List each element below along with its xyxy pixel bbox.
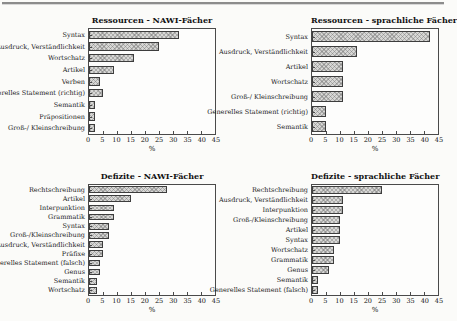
category-label: Ausdruck, Verständlichkeit	[0, 241, 85, 248]
x-tick-mark	[117, 292, 118, 295]
bar	[312, 206, 343, 213]
x-tick-label: 20	[364, 137, 372, 144]
x-tick-label: 45	[212, 137, 220, 144]
x-tick-label: 5	[100, 137, 104, 144]
bar-row: Syntax	[312, 29, 438, 44]
bar	[89, 77, 100, 85]
bar-row: Wortschatz	[312, 74, 438, 89]
x-tick-label: 35	[406, 298, 414, 305]
category-label: Grammatik	[271, 257, 308, 264]
x-tick-label: 15	[127, 137, 135, 144]
bar	[89, 232, 109, 239]
x-axis-ticks: 051015202530354045	[311, 135, 439, 144]
bar	[89, 250, 103, 257]
bar	[89, 260, 100, 267]
x-tick-label: 20	[364, 298, 372, 305]
category-label: Genus	[64, 269, 85, 276]
category-label: Syntax	[63, 32, 85, 39]
x-tick-mark	[159, 131, 160, 134]
x-tick-label: 20	[141, 137, 149, 144]
bar-row: Artikel	[89, 64, 215, 76]
bar-row: Semantik	[89, 99, 215, 111]
x-tick-label: 30	[169, 137, 177, 144]
x-tick-label: 5	[100, 298, 104, 305]
category-label: Semantik	[54, 102, 85, 109]
bar-row: Rechtschreibung	[312, 185, 438, 195]
x-tick-mark	[187, 292, 188, 295]
category-label: Verben	[62, 78, 85, 85]
category-label: Grammatik	[48, 214, 85, 221]
chart-defizite-nawi: Defizite - NAWI-Fächer RechtschreibungAr…	[0, 160, 223, 321]
category-label: Groß-/Kleinschreibung	[10, 232, 85, 239]
chart-panel-grid: Ressourcen - NAWI-Fächer SyntaxAusdruck,…	[0, 8, 446, 321]
bar-row: Generelles Statement (richtig)	[312, 104, 438, 119]
category-label: Präfixe	[62, 251, 85, 258]
bar-row: Wortschatz	[89, 52, 215, 64]
x-tick-mark	[145, 292, 146, 295]
bar-row: Grammatik	[312, 255, 438, 265]
category-label: Interpunktion	[39, 205, 85, 212]
x-tick-label: 0	[309, 137, 313, 144]
x-tick-mark	[159, 292, 160, 295]
category-label: Interpunktion	[262, 207, 308, 214]
category-label: Groß-/ Kleinschreibung	[231, 93, 308, 100]
category-label: Generelles Statement (richtig)	[0, 90, 85, 97]
x-tick-label: 15	[350, 137, 358, 144]
x-tick-label: 25	[378, 298, 386, 305]
bar-row: Genus	[312, 265, 438, 275]
bar-row: Wortschatz	[89, 286, 215, 295]
bar	[89, 195, 131, 202]
bar	[312, 106, 326, 117]
x-tick-label: 45	[435, 298, 443, 305]
x-tick-label: 0	[86, 137, 90, 144]
chart-defizite-sprachlich: Defizite - sprachliche Fächer Rechtschre…	[223, 160, 446, 321]
x-tick-mark	[201, 292, 202, 295]
bar	[89, 214, 114, 221]
bar-row: Grammatik	[89, 213, 215, 222]
x-tick-label: 5	[323, 137, 327, 144]
chart-title: Defizite - NAWI-Fächer	[88, 171, 216, 181]
bar-row: Semantik	[89, 277, 215, 286]
bar-row: Rechtschreibung	[89, 185, 215, 194]
x-tick-mark	[326, 292, 327, 295]
x-tick-label: 10	[112, 137, 120, 144]
x-tick-label: 5	[323, 298, 327, 305]
category-label: Ausdruck, Verständlichkeit	[0, 43, 85, 50]
bar-row: Groß-/ Kleinschreibung	[89, 122, 215, 134]
bar	[89, 31, 179, 39]
x-axis-ticks: 051015202530354045	[311, 296, 439, 305]
x-tick-label: 25	[155, 137, 163, 144]
bar	[312, 236, 340, 243]
x-tick-mark	[354, 131, 355, 134]
chart-ressourcen-nawi: Ressourcen - NAWI-Fächer SyntaxAusdruck,…	[0, 8, 223, 160]
x-tick-mark	[382, 131, 383, 134]
bar	[312, 91, 343, 102]
bar	[89, 278, 97, 285]
category-label: Genus	[287, 267, 308, 274]
x-tick-label: 35	[183, 137, 191, 144]
bar-row: Ausdruck, Verständlichkeit	[89, 240, 215, 249]
x-tick-mark	[396, 292, 397, 295]
category-label: Syntax	[286, 33, 308, 40]
bar-row: Artikel	[312, 59, 438, 74]
x-tick-mark	[340, 131, 341, 134]
x-tick-mark	[187, 131, 188, 134]
category-label: Artikel	[63, 67, 85, 74]
x-tick-mark	[103, 131, 104, 134]
bar	[89, 287, 97, 294]
x-tick-label: 0	[309, 298, 313, 305]
x-tick-label: 40	[198, 137, 206, 144]
x-tick-mark	[410, 292, 411, 295]
x-tick-mark	[354, 292, 355, 295]
bar-row: Groß-/Kleinschreibung	[89, 231, 215, 240]
x-axis-label: %	[311, 146, 439, 153]
bar-row: Präfixe	[89, 249, 215, 258]
bar	[89, 112, 95, 120]
x-tick-mark	[173, 292, 174, 295]
plot-area: SyntaxAusdruck, VerständlichkeitWortscha…	[88, 28, 216, 135]
bar-row: Syntax	[89, 29, 215, 41]
x-tick-mark	[145, 131, 146, 134]
bar-row: Interpunktion	[312, 205, 438, 215]
category-label: Semantik	[277, 123, 308, 130]
bar	[312, 46, 357, 57]
